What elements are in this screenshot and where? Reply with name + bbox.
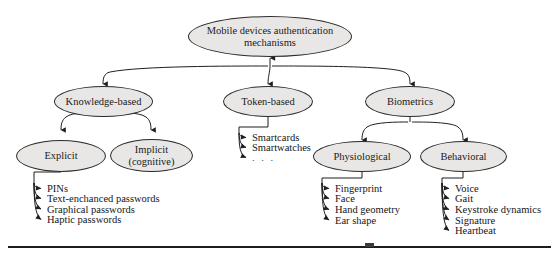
- leaf-explicit-4: Haptic passwords: [47, 215, 121, 226]
- node-token-based[interactable]: Token-based: [223, 86, 313, 117]
- leaf-physiological-2: Face: [335, 194, 355, 205]
- node-implicit-line2: (cognitive): [128, 156, 174, 167]
- node-explicit[interactable]: Explicit: [16, 140, 106, 172]
- node-root-line1: Mobile devices authentication: [207, 25, 334, 36]
- node-implicit-cognitive-label: Implicit (cognitive): [128, 144, 174, 167]
- bottom-divider: [8, 246, 551, 248]
- leaf-token-ellipsis: . . .: [252, 153, 275, 164]
- node-explicit-label: Explicit: [44, 150, 77, 161]
- leaf-behavioral-5: Heartbeat: [455, 226, 496, 237]
- bottom-divider-tick: [365, 243, 374, 247]
- node-token-based-label: Token-based: [241, 96, 295, 107]
- leaf-behavioral-3: Keystroke dynamics: [455, 205, 541, 216]
- node-knowledge-based-label: Knowledge-based: [66, 96, 142, 107]
- node-behavioral[interactable]: Behavioral: [420, 141, 507, 172]
- node-knowledge-based[interactable]: Knowledge-based: [54, 86, 153, 117]
- leaf-explicit-2: Text-enchanced passwords: [47, 194, 160, 205]
- node-behavioral-label: Behavioral: [440, 151, 486, 162]
- node-root-line2: mechanisms: [244, 37, 296, 48]
- node-implicit-cognitive[interactable]: Implicit (cognitive): [110, 139, 193, 172]
- node-biometrics[interactable]: Biometrics: [365, 86, 455, 117]
- node-physiological[interactable]: Physiological: [313, 141, 411, 172]
- leaf-physiological-3: Hand geometry: [335, 205, 400, 216]
- leaf-behavioral-2: Gait: [455, 194, 473, 205]
- node-root[interactable]: Mobile devices authentication mechanisms: [188, 16, 352, 57]
- node-implicit-line1: Implicit: [135, 144, 168, 155]
- node-physiological-label: Physiological: [333, 151, 390, 162]
- leaf-physiological-4: Ear shape: [335, 216, 376, 227]
- node-root-label: Mobile devices authentication mechanisms: [207, 25, 334, 48]
- node-biometrics-label: Biometrics: [387, 96, 433, 107]
- taxonomy-diagram: Mobile devices authentication mechanisms…: [0, 0, 559, 262]
